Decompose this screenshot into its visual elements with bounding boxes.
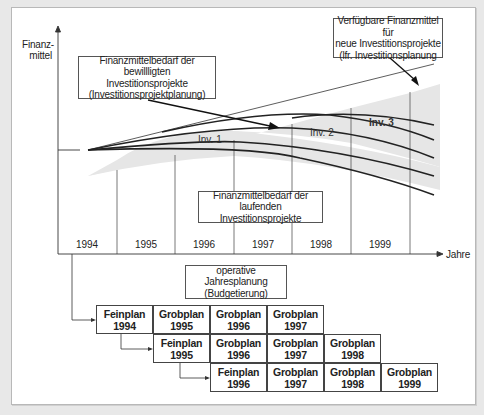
plan-year: 1995 [154,349,209,361]
year-label: 1996 [175,239,233,250]
plan-year: 1997 [268,378,323,390]
callout-line: Verfügbare Finanzmittel für [334,15,442,38]
plan-cell: Grobplan1999 [381,363,438,392]
plan-type: Grobplan [268,337,323,349]
x-axis-label: Jahre [446,249,470,260]
investment-label-1: Inv. 1 [198,134,222,145]
plan-cell: Grobplan1997 [267,334,324,363]
callout-line: (Investitionsprojektplanung) [79,89,215,101]
y-axis-label-line1: Finanz- [22,39,52,50]
plan-type: Grobplan [325,366,380,378]
plan-type: Grobplan [211,337,266,349]
plan-type: Feinplan [97,308,152,320]
plan-year: 1999 [382,378,437,390]
plan-cell: Grobplan1998 [324,334,381,363]
callout-line: Finanzmittelbedarf der [199,190,322,202]
plan-year: 1996 [211,320,266,332]
plan-type: Grobplan [325,337,380,349]
plan-year: 1997 [268,349,323,361]
plan-type: Grobplan [268,366,323,378]
callout-line: laufenden Investitionsprojekte [199,201,322,224]
plan-type: Feinplan [211,366,266,378]
plan-year: 1995 [154,320,209,332]
plan-year: 1994 [97,320,152,332]
investment-label-2: Inv. 2 [310,127,334,138]
plan-type: Grobplan [382,366,437,378]
callout-line: (lfr. Investitionsplanung [334,50,442,62]
plan-type: Grobplan [154,308,209,320]
callout-line: neue Investitionsprojekte [334,38,442,50]
plan-cell: Grobplan1996 [210,305,267,334]
plan-cell: Grobplan1997 [267,363,324,392]
callout-line: operative Jahresplanung [186,265,286,288]
available-funds-callout: Verfügbare Finanzmittel für neue Investi… [333,18,443,58]
budget-callout: operative Jahresplanung (Budgetierung) [185,265,287,299]
plan-year: 1998 [325,349,380,361]
year-label: 1995 [117,239,175,250]
plan-type: Grobplan [268,308,323,320]
plan-year: 1996 [211,378,266,390]
available-callout-arrow [390,58,415,80]
y-axis-label: Finanz- mittel [22,39,52,61]
plan-year: 1996 [211,349,266,361]
investment-label-3: Inv. 3 [369,117,394,128]
callout-line: Finanzmittelbedarf der bewillligten [79,55,215,78]
plan-type: Grobplan [211,308,266,320]
callout-line: Investitionsprojekte [79,78,215,90]
plan-cell: Grobplan1997 [267,305,324,334]
callout-line: (Budgetierung) [186,288,286,300]
plan-cell: Feinplan1995 [153,334,210,363]
plan-year: 1997 [268,320,323,332]
plan-year: 1998 [325,378,380,390]
year-label: 1998 [292,239,350,250]
plan-cell: Grobplan1996 [210,334,267,363]
y-axis-label-line2: mittel [22,50,52,61]
plan-type: Feinplan [154,337,209,349]
plan-cell: Feinplan1996 [210,363,267,392]
plan-cell: Grobplan1998 [324,363,381,392]
running-projects-callout: Finanzmittelbedarf der laufenden Investi… [198,191,323,223]
plan-cell: Grobplan1995 [153,305,210,334]
year-label: 1999 [351,239,409,250]
year-label: 1994 [58,239,116,250]
year-label: 1997 [234,239,292,250]
plan-cell: Feinplan1994 [96,305,153,334]
approved-projects-callout: Finanzmittelbedarf der bewillligten Inve… [78,56,216,99]
